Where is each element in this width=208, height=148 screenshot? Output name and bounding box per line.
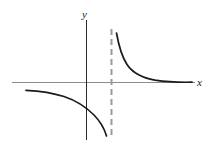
curve-upper-right-branch <box>117 33 193 82</box>
x-axis-label: x <box>197 77 202 88</box>
graph-figure: y x <box>0 0 208 148</box>
plot-canvas <box>0 0 208 148</box>
y-axis-label: y <box>82 9 87 20</box>
curve-lower-left-branch <box>26 90 107 136</box>
